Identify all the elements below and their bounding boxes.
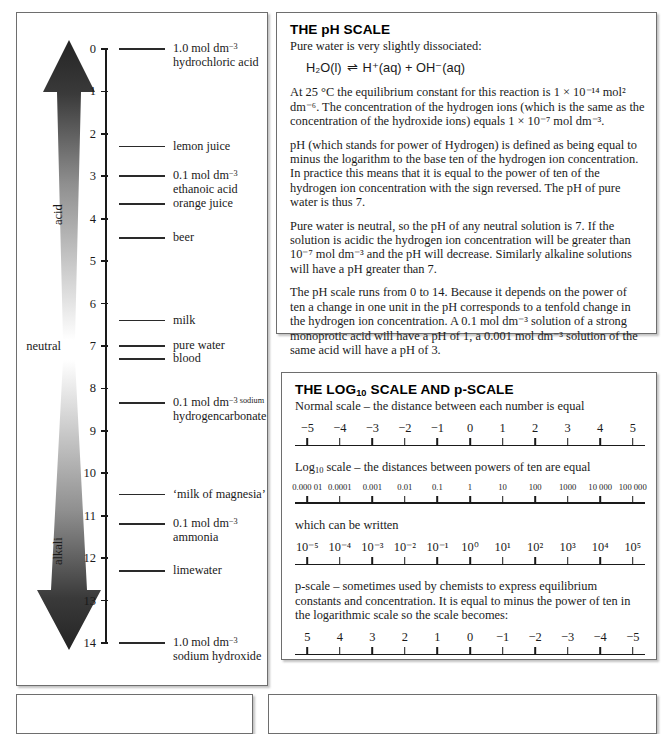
scale-tick-label: 4	[597, 422, 603, 435]
ph-tick-14	[101, 642, 108, 644]
scale-tick-label: 10 000	[588, 481, 612, 494]
ph-tick-label-13: 13	[63, 595, 96, 607]
scale-tick-label: 4	[337, 631, 343, 644]
ph-tick-label-0: 0	[63, 43, 96, 55]
scale-tick	[372, 438, 374, 445]
substance-name: limewater	[173, 563, 222, 577]
caption-log-pre: Log	[295, 460, 315, 474]
scale-tick	[632, 496, 634, 503]
scale-tick	[339, 438, 341, 445]
scale-tick	[404, 557, 406, 564]
substance-name-line2: sodium hydroxide	[173, 649, 261, 663]
ph-substance-label: beer	[173, 231, 273, 245]
ph-scale-figure: acid alkali 01234567neutral891011121314 …	[17, 13, 267, 685]
ph-substance-marker	[119, 570, 165, 572]
caption-log-scale: Log10 scale – the distances between powe…	[295, 460, 645, 474]
ph-text-para-1: At 25 °C the equilibrium constant for th…	[290, 85, 645, 128]
ph-text-intro: Pure water is very slightly dissociated:	[290, 39, 645, 53]
ph-text-para-2: pH (which stands for power of Hydrogen) …	[290, 138, 645, 210]
substance-name: lemon juice	[173, 139, 230, 153]
ph-tick-label-12: 12	[63, 552, 96, 564]
scale-tick-label: 1	[434, 631, 440, 644]
scale-tick-label: −1	[496, 631, 509, 644]
ph-tick-label-6: 6	[63, 298, 96, 310]
scale-tick-label: −4	[333, 422, 346, 435]
scale-tick	[599, 496, 601, 503]
scale-tick	[567, 647, 569, 654]
ph-substance-label: 1.0 mol dm−3sodium hydroxide	[173, 636, 273, 663]
ph-tick-6	[101, 303, 108, 305]
neutral-label: neutral	[3, 340, 61, 352]
scale-tick	[599, 438, 601, 445]
substance-name: 1.0 mol dm	[173, 635, 229, 649]
substance-name-line2: ammonia	[173, 530, 218, 544]
ph-substance-label: 0.1 mol dm−3ammonia	[173, 517, 273, 544]
scale-tick	[567, 438, 569, 445]
substance-name-line2: hydrochloric acid	[173, 55, 259, 69]
equation-products: H⁺(aq) + OH⁻(aq)	[363, 60, 466, 75]
scale-tick-label: −1	[431, 422, 444, 435]
substance-name: 1.0 mol dm	[173, 41, 229, 55]
caption-written: which can be written	[295, 518, 645, 532]
scale-tick	[567, 557, 569, 564]
scale-tick	[306, 647, 308, 654]
ph-tick-11	[101, 515, 108, 517]
ph-substance-marker	[119, 358, 165, 360]
substance-exponent: −3	[229, 42, 238, 51]
ph-tick-label-2: 2	[63, 128, 96, 140]
ph-tick-label-5: 5	[63, 255, 96, 267]
scale-tick	[502, 557, 504, 564]
scale-tick	[599, 647, 601, 654]
ph-substance-label: milk	[173, 314, 273, 328]
scale-tick-label: 10⁰	[461, 541, 478, 554]
scale-tick	[306, 557, 308, 564]
scale-tick-label: 10	[498, 481, 507, 494]
scale-tick	[404, 438, 406, 445]
scale-tick-label: 1000	[559, 481, 576, 494]
substance-exponent: −3	[229, 517, 238, 526]
ph-tick-label-14: 14	[63, 637, 96, 649]
scale-tick	[437, 647, 439, 654]
ph-text-title: THE pH SCALE	[290, 22, 645, 37]
scale-tick-label: 10³	[560, 541, 576, 554]
substance-name: blood	[173, 351, 201, 365]
ph-substance-label: orange juice	[173, 197, 273, 211]
ph-tick-label-10: 10	[63, 467, 96, 479]
water-dissociation-equation: H₂O(l)⇌H⁺(aq) + OH⁻(aq)	[290, 60, 645, 76]
ph-scale-text-panel: THE pH SCALE Pure water is very slightly…	[276, 12, 657, 334]
substance-exponent: −3 sodium	[229, 396, 264, 405]
caption-p-scale: p-scale – sometimes used by chemists to …	[295, 579, 645, 622]
ph-substance-marker	[119, 345, 165, 347]
scale-tick-label: 5	[630, 422, 636, 435]
scale-tick-label: 100	[529, 481, 542, 494]
scale-tick-label: 0	[467, 422, 473, 435]
log-title-sub: 10	[356, 388, 366, 398]
ph-tick-label-9: 9	[63, 425, 96, 437]
ph-substance-marker	[119, 320, 165, 322]
scale-tick	[339, 496, 341, 503]
substance-name: ‘milk of magnesia’	[173, 487, 266, 501]
scale-tick	[469, 438, 471, 445]
ph-substance-marker	[119, 237, 165, 239]
scale-tick	[534, 438, 536, 445]
scale-tick-label: 5	[304, 631, 310, 644]
scale-tick	[534, 557, 536, 564]
scale-tick	[372, 496, 374, 503]
ph-substance-label: lemon juice	[173, 140, 273, 154]
scale-tick	[339, 557, 341, 564]
ph-tick-9	[101, 430, 108, 432]
ph-tick-0	[101, 48, 108, 50]
ph-substance-marker	[119, 642, 165, 644]
scale-tick	[306, 438, 308, 445]
scale-tick-label: 0	[467, 631, 473, 644]
ph-substance-marker	[119, 203, 165, 205]
ph-substance-marker	[119, 48, 165, 50]
scale-tick-label: −2	[398, 422, 411, 435]
scale-tick-label: 2	[532, 422, 538, 435]
scale-tick	[632, 647, 634, 654]
scale-tick	[534, 647, 536, 654]
scale-tick-label: 10¹	[494, 541, 510, 554]
scale-tick-label: 3	[369, 631, 375, 644]
scale-tick-label: −4	[594, 631, 607, 644]
scale-tick-label: 10⁻¹	[426, 541, 448, 554]
